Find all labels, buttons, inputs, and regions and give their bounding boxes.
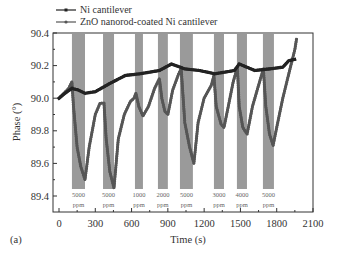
x-tick-label: 600 (124, 218, 140, 229)
x-tick-label: 1800 (266, 218, 287, 229)
band-concentration-label: 5000 (180, 191, 193, 198)
band-unit-label: ppm (157, 201, 169, 208)
band-unit-label: ppm (103, 201, 115, 208)
legend-label: Ni cantilever (80, 4, 133, 15)
band-unit-label: ppm (263, 201, 275, 208)
exposure-band (263, 34, 274, 189)
y-tick-label: 89.4 (31, 191, 50, 202)
y-tick-label: 90.2 (31, 60, 49, 71)
exposure-band (237, 34, 247, 189)
band-concentration-label: 4000 (235, 191, 248, 198)
legend-label: ZnO nanorod-coated Ni cantilever (80, 16, 218, 27)
x-tick-label: 1200 (194, 218, 215, 229)
y-axis-title: Phase (°) (11, 102, 23, 141)
phase-vs-time-chart: 5000ppm5000ppm1000ppm2000ppm5000ppm3000p… (0, 0, 337, 262)
y-tick-label: 90.0 (31, 93, 49, 104)
zno-cantilever-markers (59, 38, 297, 188)
series-lines (59, 38, 297, 188)
band-concentration-label: 3000 (212, 191, 225, 198)
band-unit-label: ppm (73, 201, 85, 208)
y-tick-label: 89.8 (31, 125, 49, 136)
band-unit-label: ppm (133, 201, 145, 208)
band-concentration-label: 2000 (156, 191, 169, 198)
x-axis-title: Time (s) (170, 234, 206, 246)
x-axis: 03006009001200150018002100 (56, 208, 323, 229)
exposure-band (180, 34, 193, 189)
band-concentration-label: 5000 (262, 191, 275, 198)
x-tick-label: 2100 (303, 218, 324, 229)
band-concentration-label: 5000 (102, 191, 115, 198)
panel-label: (a) (10, 234, 22, 246)
legend: Ni cantileverZnO nanorod-coated Ni canti… (56, 4, 218, 27)
band-concentration-label: 1000 (132, 191, 145, 198)
band-unit-label: ppm (213, 201, 225, 208)
x-tick-label: 0 (56, 218, 61, 229)
band-unit-label: ppm (236, 201, 248, 208)
exposure-bands (72, 34, 274, 189)
legend-circle-marker-icon (64, 20, 67, 23)
y-tick-label: 89.6 (31, 158, 49, 169)
legend-square-marker-icon (65, 9, 68, 12)
x-tick-label: 1500 (230, 218, 251, 229)
band-labels: 5000ppm5000ppm1000ppm2000ppm5000ppm3000p… (72, 191, 275, 208)
x-tick-label: 300 (87, 218, 103, 229)
y-tick-label: 90.4 (31, 28, 50, 39)
band-unit-label: ppm (181, 201, 193, 208)
band-concentration-label: 5000 (72, 191, 85, 198)
x-tick-label: 900 (160, 218, 176, 229)
